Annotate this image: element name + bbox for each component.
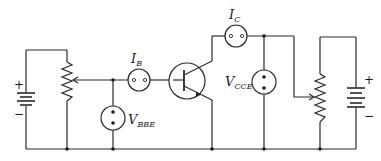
vcce-voltmeter: VCCE [225,70,276,94]
vbbe-label-subscript: BBE [136,120,155,129]
ib-ammeter: IB [128,51,150,91]
right-wiper-arrow [294,36,314,100]
junction-dot [111,147,115,151]
circuit-diagram: + − VBBE IB [0,0,381,161]
ic-label-subscript: C [234,15,240,24]
right-potentiometer [315,37,325,149]
left-wiper-arrow [73,77,128,83]
junction-dot [65,147,69,151]
left-potentiometer [62,50,72,149]
ic-ammeter: IC [225,7,247,47]
vbbe-voltmeter: VBBE [101,106,155,130]
left-battery-plus: + [14,78,24,92]
right-battery: + − [347,37,374,149]
junction-dot [210,147,214,151]
svg-text:IB: IB [130,51,142,68]
svg-text:IC: IC [228,7,240,24]
right-battery-plus: + [364,73,374,87]
junction-dot [318,147,322,151]
junction-dot [262,147,266,151]
left-battery: + − [14,50,35,149]
svg-text:VBBE: VBBE [128,112,155,129]
npn-transistor [169,36,212,149]
left-battery-minus: − [14,107,24,121]
right-battery-minus: − [364,109,374,123]
vcce-label-subscript: CCE [234,82,252,91]
svg-text:VCCE: VCCE [225,74,253,91]
ib-label-subscript: B [135,59,142,68]
